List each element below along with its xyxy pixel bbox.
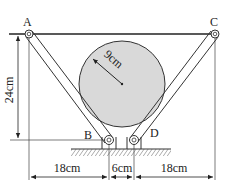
right-span-label: 18cm	[161, 161, 188, 175]
pivot-b	[105, 136, 114, 145]
pivot-a	[25, 30, 33, 38]
mechanism-diagram: 24cm 9cm A C B D 18cm 6cm 18cm	[0, 0, 229, 190]
middle-span-label: 6cm	[112, 161, 133, 175]
label-a: A	[23, 15, 32, 29]
label-d: D	[150, 126, 159, 140]
left-span-label: 18cm	[54, 161, 81, 175]
ground-hatch	[71, 149, 171, 156]
label-b: B	[84, 128, 92, 142]
pivot-c	[211, 30, 219, 38]
pivot-d	[130, 136, 139, 145]
label-c: C	[210, 15, 218, 29]
ball-center	[121, 83, 123, 85]
height-label: 24cm	[2, 76, 16, 103]
